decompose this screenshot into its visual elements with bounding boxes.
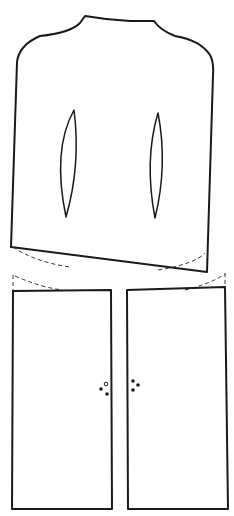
- left-button-2: [99, 387, 103, 391]
- panel-dashed-guides: [13, 273, 225, 292]
- left-button-3: [105, 392, 109, 396]
- pattern-diagram: [0, 0, 234, 516]
- left-panel-guide: [13, 275, 62, 292]
- right-panel-outline: [127, 287, 228, 509]
- right-button-2: [136, 383, 140, 387]
- right-button-1: [131, 379, 135, 383]
- pattern-svg: [0, 0, 234, 516]
- right-dart: [150, 113, 162, 218]
- left-button-1: [104, 382, 108, 386]
- bodice-outline: [11, 16, 213, 272]
- bodice-piece: [11, 16, 213, 272]
- right-front-panel: [127, 287, 228, 509]
- left-front-panel: [12, 290, 112, 509]
- left-dart: [61, 110, 77, 217]
- right-button-3: [131, 388, 135, 392]
- left-panel-outline: [12, 290, 112, 509]
